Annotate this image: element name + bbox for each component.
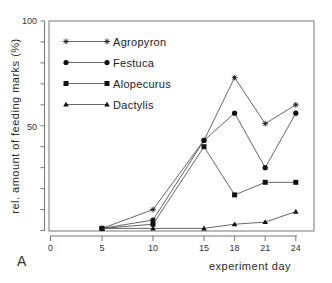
legend-label: Festuca bbox=[113, 57, 155, 69]
x-tick-label: 10 bbox=[148, 243, 158, 253]
legend: AgropyronFestucaAlopecurusDactylis bbox=[63, 36, 171, 111]
square-marker-icon bbox=[202, 144, 207, 149]
y-tick-label-50: 50 bbox=[27, 122, 37, 132]
x-tick-label: 0 bbox=[48, 243, 53, 253]
square-marker-icon bbox=[64, 81, 69, 86]
series-dactylis bbox=[99, 209, 298, 231]
legend-label: Dactylis bbox=[113, 99, 154, 111]
x-tick-label: 18 bbox=[230, 243, 240, 253]
legend-item-alopecurus: Alopecurus bbox=[64, 78, 172, 90]
x-axis-label: experiment day bbox=[209, 260, 291, 272]
x-tick-label: 24 bbox=[291, 243, 301, 253]
square-marker-icon bbox=[232, 192, 237, 197]
star-marker-icon bbox=[232, 75, 238, 81]
circle-marker-icon bbox=[104, 60, 109, 65]
star-marker-icon bbox=[63, 39, 69, 45]
series-festuca bbox=[99, 111, 298, 231]
panel-label: A bbox=[17, 253, 27, 269]
legend-item-festuca: Festuca bbox=[63, 57, 154, 69]
circle-marker-icon bbox=[293, 111, 298, 116]
square-marker-icon bbox=[293, 180, 298, 185]
star-marker-icon bbox=[150, 207, 156, 213]
y-tick-label-100: 100 bbox=[22, 16, 37, 26]
legend-label: Alopecurus bbox=[113, 78, 171, 90]
x-tick-label: 15 bbox=[199, 243, 209, 253]
star-marker-icon bbox=[104, 39, 110, 45]
x-tick-label: 21 bbox=[260, 243, 270, 253]
legend-item-dactylis: Dactylis bbox=[63, 99, 154, 111]
y-axis-label: rel. amount of feeding marks (%) bbox=[9, 38, 21, 214]
x-axis: 051015182124 experiment day bbox=[48, 236, 301, 272]
x-tick-label: 5 bbox=[99, 243, 104, 253]
circle-marker-icon bbox=[201, 138, 206, 143]
legend-item-agropyron: Agropyron bbox=[63, 36, 166, 48]
line-chart: 100 50 rel. amount of feeding marks (%) … bbox=[0, 0, 332, 283]
circle-marker-icon bbox=[63, 60, 68, 65]
plot-frame bbox=[49, 21, 314, 231]
square-marker-icon bbox=[263, 180, 268, 185]
circle-marker-icon bbox=[232, 111, 237, 116]
star-marker-icon bbox=[262, 121, 268, 127]
legend-label: Agropyron bbox=[113, 36, 166, 48]
star-marker-icon bbox=[293, 102, 299, 108]
square-marker-icon bbox=[105, 81, 110, 86]
y-axis: 100 50 rel. amount of feeding marks (%) bbox=[9, 16, 45, 231]
circle-marker-icon bbox=[263, 165, 268, 170]
triangle-marker-icon bbox=[293, 209, 299, 214]
